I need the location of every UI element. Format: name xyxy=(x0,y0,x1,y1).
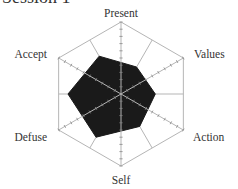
radar-chart: Present Values Action Self Defuse Accept xyxy=(0,0,238,189)
axis-label-self: Self xyxy=(112,174,131,186)
axis-label-values: Values xyxy=(194,48,225,60)
axis-label-action: Action xyxy=(193,131,225,143)
data-polygon xyxy=(68,56,155,137)
axis-label-accept: Accept xyxy=(14,48,47,61)
axis-label-defuse: Defuse xyxy=(14,131,47,143)
axis-label-present: Present xyxy=(104,7,139,19)
